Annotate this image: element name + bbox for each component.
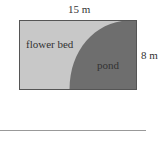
- garden-diagram: [0, 0, 167, 151]
- flower-bed-label: flower bed: [26, 39, 73, 50]
- pond-label: pond: [97, 60, 119, 71]
- width-label: 15 m: [68, 4, 90, 15]
- height-label: 8 m: [141, 50, 158, 61]
